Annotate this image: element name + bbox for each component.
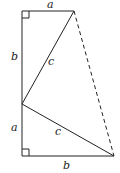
dashed-edge [74,11,114,156]
trapezoid-diagram: a b c a c b [0,0,120,173]
label-lower-left-a: a [11,121,18,134]
right-angle-marker-top [22,11,29,18]
lower-hypotenuse-c [22,104,114,156]
right-angle-marker-bottom [22,149,29,156]
label-upper-c: c [48,55,54,68]
label-bottom-b: b [63,159,70,172]
label-upper-left-b: b [11,50,18,63]
label-top-a: a [47,0,54,11]
label-lower-c: c [55,125,61,138]
